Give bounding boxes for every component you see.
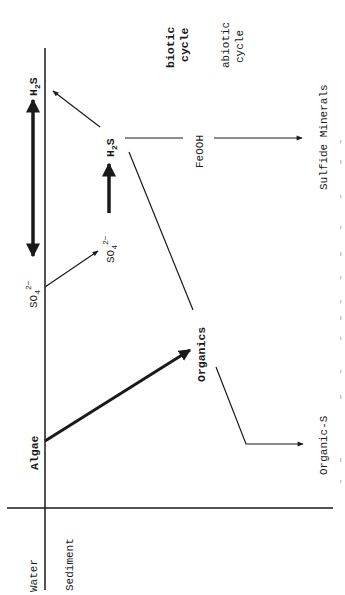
water-label: Water	[28, 559, 40, 592]
organic-s-label: Organic-S	[318, 415, 330, 475]
sulfide-minerals-label: Sulfide Minerals	[318, 84, 330, 190]
organics-label: Organics	[195, 327, 208, 382]
h2s-sediment-label: H2S	[104, 138, 119, 157]
so4-sediment-label: SO42−	[101, 235, 119, 263]
legend-abiotic-line2: cycle	[234, 30, 246, 63]
sediment-label: Sediment	[64, 538, 76, 591]
so4-water-label: SO42−	[24, 280, 42, 308]
legend-abiotic-line1: abiotic	[220, 22, 232, 68]
legend-biotic-line2: cycle	[178, 27, 191, 62]
so4-to-sediment-arrow	[45, 251, 98, 287]
feooh-label: FeOOH	[194, 135, 206, 168]
organics-to-organic-s-arrow	[216, 367, 303, 444]
algae-label: Algae	[28, 435, 41, 470]
h2s-to-water-arrow	[53, 91, 100, 127]
sulfur-cycle-diagram: biotic cycle abiotic cycle H2S H2S FeOOH…	[0, 0, 345, 595]
h2s-water-label: H2S	[27, 77, 42, 96]
algae-to-organics-arrow	[45, 350, 190, 441]
caption-fragment	[340, 140, 342, 483]
legend-biotic-line1: biotic	[164, 26, 177, 68]
organics-to-h2s-line	[129, 152, 193, 310]
